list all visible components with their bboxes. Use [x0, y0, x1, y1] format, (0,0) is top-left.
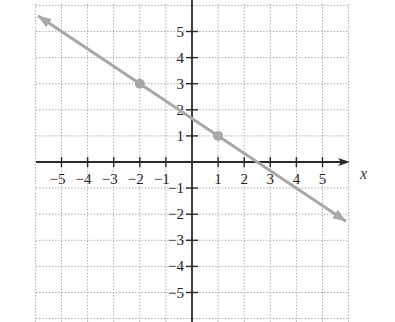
- y-tick-label: 1: [177, 128, 185, 144]
- x-tick-label: −2: [128, 171, 144, 187]
- coordinate-plane: −5−4−3−2−11234554321−1−2−3−4−5 x: [0, 0, 395, 322]
- y-tick-label: −3: [168, 232, 184, 248]
- data-point: [135, 79, 145, 89]
- y-tick-label: 3: [177, 76, 185, 92]
- x-tick-label: −3: [102, 171, 118, 187]
- y-tick-label: 4: [177, 50, 185, 66]
- x-tick-label: 2: [240, 171, 248, 187]
- x-tick-label: −4: [76, 171, 92, 187]
- x-tick-label: 1: [214, 171, 222, 187]
- y-tick-label: −2: [168, 206, 184, 222]
- x-tick-label: −5: [50, 171, 66, 187]
- y-tick-label: −5: [168, 285, 184, 301]
- y-tick-label: 5: [177, 24, 185, 40]
- x-axis-label: x: [359, 165, 367, 182]
- y-tick-label: −1: [168, 180, 184, 196]
- arrow-right-icon: [332, 210, 346, 221]
- x-tick-label: 4: [293, 171, 301, 187]
- arrow-left-icon: [38, 16, 52, 27]
- axes: [36, 0, 350, 322]
- x-tick-label: 5: [319, 171, 327, 187]
- y-tick-label: −4: [168, 258, 184, 274]
- data-point: [213, 131, 223, 141]
